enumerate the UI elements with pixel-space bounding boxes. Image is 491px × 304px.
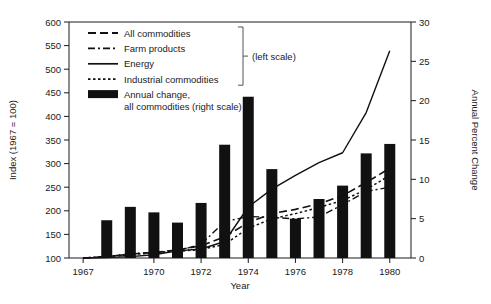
right-axis-tick-label: 30 — [419, 17, 430, 28]
right-axis-tick-label: 15 — [419, 135, 430, 146]
x-axis-tick-label: 1974 — [238, 266, 259, 277]
legend-item-label: Farm products — [124, 43, 185, 54]
left-axis-tick-label: 100 — [45, 253, 61, 264]
annual-change-bar — [125, 207, 136, 258]
right-axis-tick-label: 5 — [419, 213, 424, 224]
annual-change-bar — [384, 144, 395, 258]
x-axis-tick-label: 1972 — [191, 266, 212, 277]
right-axis-tick-label: 20 — [419, 95, 430, 106]
x-axis-tick-label: 1978 — [332, 266, 353, 277]
x-axis-tick-label: 1980 — [379, 266, 400, 277]
x-axis-tick-label: 1967 — [73, 266, 94, 277]
annual-change-bar — [361, 153, 372, 258]
left-axis-tick-label: 450 — [45, 87, 61, 98]
left-axis-tick-label: 250 — [45, 182, 61, 193]
left-axis-tick-label: 300 — [45, 158, 61, 169]
chart-container: 1001502002503003504004505005506000510152… — [0, 0, 491, 304]
annual-change-bar — [172, 223, 183, 258]
legend-item-label: Energy — [124, 58, 154, 69]
left-axis-tick-label: 550 — [45, 40, 61, 51]
left-axis-tick-label: 400 — [45, 111, 61, 122]
left-axis-tick-label: 600 — [45, 17, 61, 28]
right-axis-tick-label: 10 — [419, 174, 430, 185]
legend-item-label: All commodities — [124, 28, 191, 39]
legend-item-label: Industrial commodities — [124, 74, 219, 85]
annual-change-bar — [243, 97, 254, 258]
left-axis-tick-label: 150 — [45, 229, 61, 240]
left-axis-tick-label: 500 — [45, 64, 61, 75]
legend-swatch-filled-bar — [88, 90, 118, 98]
left-scale-note: (left scale) — [252, 51, 296, 62]
right-axis-title: Annual Percent Change — [470, 90, 481, 191]
left-axis-title: Index (1967 = 100) — [7, 100, 18, 180]
price-index-chart: 1001502002503003504004505005506000510152… — [0, 0, 491, 304]
left-scale-bracket — [238, 27, 243, 85]
annual-change-bar — [101, 220, 112, 258]
annual-change-bar — [290, 219, 301, 258]
right-axis-tick-label: 25 — [419, 56, 430, 67]
legend-item-label: Annual change, — [124, 89, 190, 100]
left-axis-tick-label: 200 — [45, 205, 61, 216]
x-axis-title: Year — [230, 280, 249, 291]
right-axis-tick-label: 0 — [419, 253, 424, 264]
legend-item-label-line2: all commodities (right scale) — [124, 101, 242, 112]
left-axis-tick-label: 350 — [45, 135, 61, 146]
x-axis-tick-label: 1970 — [143, 266, 164, 277]
x-axis-tick-label: 1976 — [285, 266, 306, 277]
